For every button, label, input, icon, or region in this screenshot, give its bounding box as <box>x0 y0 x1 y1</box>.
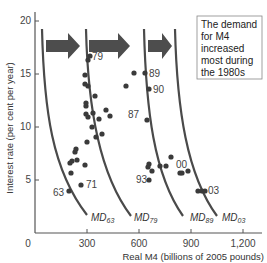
svg-text:The demand: The demand <box>201 19 257 30</box>
year-label-89: 89 <box>149 68 161 79</box>
md-labels: MD63 MD79 MD89 MD03 <box>91 212 245 224</box>
y-tick-20: 20 <box>20 15 32 26</box>
year-label-63: 63 <box>53 187 65 198</box>
md63-label: MD63 <box>91 212 114 224</box>
md89-label: MD89 <box>190 212 213 224</box>
md79-label: MD79 <box>134 212 157 224</box>
year-label-87: 87 <box>128 109 140 120</box>
y-tick-10: 10 <box>20 121 32 132</box>
annotation-note: The demand for M4 increased most during … <box>197 16 262 79</box>
arrow-icon <box>46 33 80 59</box>
svg-text:increased: increased <box>201 43 244 54</box>
year-label-71: 71 <box>86 179 98 190</box>
x-tick-900: 900 <box>183 238 200 249</box>
x-tick-300: 300 <box>79 238 96 249</box>
shift-arrows <box>46 33 172 59</box>
x-tick-0: 0 <box>25 238 31 249</box>
x-tick-600: 600 <box>131 238 148 249</box>
y-axis-label: Interest rate (per cent per year) <box>4 62 15 193</box>
year-label-79: 79 <box>92 51 104 62</box>
x-tick-1200: 1,200 <box>230 238 255 249</box>
svg-text:the 1980s: the 1980s <box>201 67 245 78</box>
x-axis-label: Real M4 (billions of 2005 pounds) <box>122 251 264 262</box>
svg-text:for M4: for M4 <box>201 31 230 42</box>
year-label-93: 93 <box>136 174 148 185</box>
year-label-03: 03 <box>208 185 220 196</box>
year-label-00: 00 <box>176 159 188 170</box>
md03-label: MD03 <box>222 212 245 224</box>
y-tick-15: 15 <box>20 68 32 79</box>
year-label-90: 90 <box>153 84 165 95</box>
svg-text:most during: most during <box>201 55 253 66</box>
arrow-icon <box>148 33 172 59</box>
y-tick-5: 5 <box>25 174 31 185</box>
money-demand-chart: 20 15 10 5 0 300 600 900 1,200 Real M4 (… <box>0 0 267 263</box>
